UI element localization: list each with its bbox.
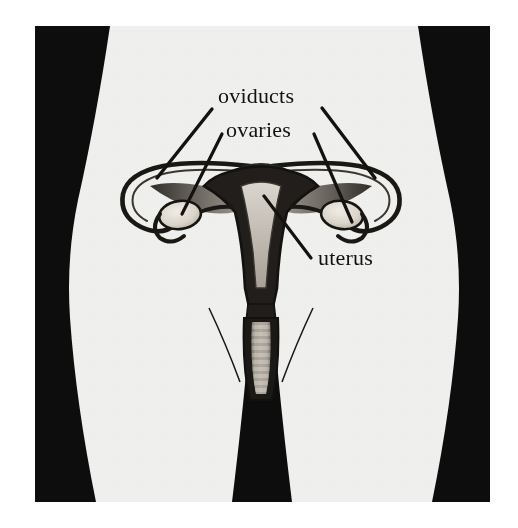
vagina-lumen-shade	[252, 322, 271, 394]
label-oviducts: oviducts	[218, 83, 294, 108]
label-ovaries: ovaries	[226, 117, 291, 142]
anatomy-figure: oviducts ovaries uterus	[0, 0, 518, 528]
figure-root: oviducts ovaries uterus	[0, 0, 518, 528]
label-uterus: uterus	[318, 245, 373, 270]
